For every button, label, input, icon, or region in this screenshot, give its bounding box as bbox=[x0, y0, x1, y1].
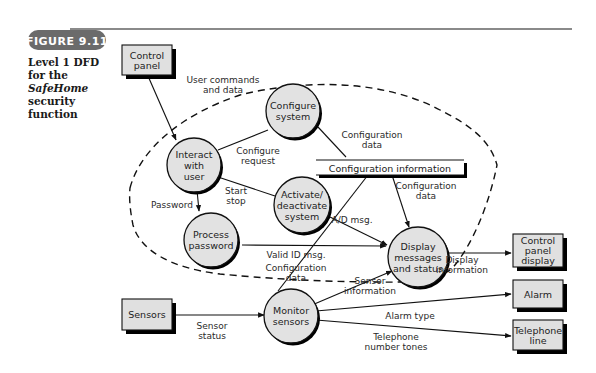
label-line: Configure bbox=[236, 146, 280, 156]
flow-label-valid-id-msg: Valid ID msg. bbox=[266, 250, 325, 260]
entity-telephone-line: Telephoneline bbox=[513, 320, 567, 354]
label-line: A/D msg. bbox=[331, 215, 372, 225]
label-line: display bbox=[521, 255, 555, 266]
flow-user-commands bbox=[148, 76, 176, 140]
label-line: Start bbox=[225, 186, 247, 196]
entity-control-panel: Controlpanel bbox=[122, 45, 176, 79]
flow-label-configuration-data-to-store: Configurationdata bbox=[341, 130, 402, 150]
caption-text: Level 1 DFD for the bbox=[28, 56, 99, 81]
flow-label-telephone-tones: Telephonenumber tones bbox=[365, 332, 428, 352]
caption-italic: SafeHome bbox=[28, 82, 88, 94]
flow-label-alarm-type: Alarm type bbox=[385, 311, 435, 321]
label-line: User commands bbox=[187, 75, 260, 85]
label-line: Monitor bbox=[273, 305, 309, 316]
label-line: line bbox=[529, 335, 546, 346]
entity-sensors: Sensors bbox=[122, 299, 176, 334]
flow-label-user-commands: User commandsand data bbox=[187, 75, 260, 95]
label-line: Configure bbox=[270, 100, 316, 111]
flow-label-start-stop: Startstop bbox=[225, 186, 247, 206]
label-line: request bbox=[241, 156, 276, 166]
label-line: Display bbox=[400, 241, 435, 252]
label-line: user bbox=[184, 171, 205, 182]
entity-control-panel-display: Controlpaneldisplay bbox=[513, 234, 567, 271]
label-line: data bbox=[362, 140, 382, 150]
label-line: Valid ID msg. bbox=[266, 250, 325, 260]
label-line: system bbox=[276, 111, 310, 122]
figure-caption: Level 1 DFD for the SafeHome security fu… bbox=[28, 56, 108, 121]
label-line: Interact bbox=[175, 149, 212, 160]
label-line: stop bbox=[226, 196, 246, 206]
label-line: Sensor bbox=[197, 321, 228, 331]
flow-label-ad-msg: A/D msg. bbox=[331, 215, 372, 225]
label-line: Activate/ bbox=[281, 189, 324, 200]
data-store-configuration-information: Configuration information bbox=[316, 160, 467, 178]
process-process-password: Processpassword bbox=[184, 213, 240, 270]
label-line: deactivate bbox=[277, 200, 327, 211]
flow-label-password: Password bbox=[151, 200, 193, 210]
label-line: system bbox=[285, 211, 319, 222]
label-line: information bbox=[344, 286, 396, 296]
label-line: Configuration bbox=[341, 130, 402, 140]
entity-alarm: Alarm bbox=[513, 280, 567, 312]
label-line: sensors bbox=[273, 316, 309, 327]
label-line: Telephone bbox=[372, 332, 419, 342]
label-line: Sensors bbox=[128, 309, 166, 320]
caption-suffix: security function bbox=[28, 95, 78, 120]
flow-label-sensor-information: Sensorinformation bbox=[344, 276, 396, 296]
label-line: with bbox=[184, 160, 204, 171]
label-line: Configuration bbox=[265, 263, 326, 273]
label-line: data bbox=[416, 191, 436, 201]
flow-label-configuration-data-from-store: Configurationdata bbox=[395, 181, 456, 201]
process-monitor-sensors: Monitorsensors bbox=[264, 289, 320, 346]
label-line: and data bbox=[203, 85, 243, 95]
label-line: Alarm type bbox=[385, 311, 435, 321]
process-activate-deactivate-system: Activate/deactivatesystem bbox=[274, 177, 332, 236]
label-line: Display bbox=[445, 255, 479, 265]
label-line: panel bbox=[134, 60, 160, 71]
process-interact-with-user: Interactwithuser bbox=[167, 138, 223, 195]
label-line: Process bbox=[193, 229, 229, 240]
process-configure-system: Configuresystem bbox=[266, 84, 322, 141]
process-display-messages-and-status: Displaymessagesand status bbox=[388, 227, 450, 290]
label-line: password bbox=[188, 240, 233, 251]
figure-badge-label: FIGURE 9.11 bbox=[26, 35, 108, 48]
flow-label-sensor-status: Sensorstatus bbox=[197, 321, 228, 341]
flow-label-configuration-data-monitor: Configurationdata bbox=[265, 263, 326, 283]
label-line: Alarm bbox=[524, 289, 552, 300]
label-line: Password bbox=[151, 200, 193, 210]
data-store-label: Configuration information bbox=[329, 163, 451, 174]
label-line: data bbox=[286, 273, 306, 283]
label-line: status bbox=[198, 331, 226, 341]
figure-badge: FIGURE 9.11 bbox=[26, 30, 108, 50]
flow-alarm-type bbox=[316, 294, 511, 311]
label-line: Configuration bbox=[395, 181, 456, 191]
flow-label-configure-request: Configurerequest bbox=[236, 146, 280, 166]
label-line: Sensor bbox=[355, 276, 386, 286]
label-line: number tones bbox=[365, 342, 428, 352]
label-line: messages bbox=[394, 252, 442, 263]
label-line: information bbox=[436, 265, 488, 275]
